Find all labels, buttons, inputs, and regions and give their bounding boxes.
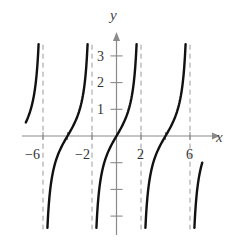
y-tick-label: 3 bbox=[97, 49, 104, 64]
curve-branch-5 bbox=[194, 163, 202, 228]
x-axis-label: x bbox=[215, 129, 223, 145]
y-axis-label: y bbox=[108, 7, 117, 23]
tangent-plot: y x −6 −2 2 6 1 2 3 bbox=[0, 0, 232, 240]
y-axis-arrow-icon bbox=[113, 32, 120, 41]
chart-stage: y x −6 −2 2 6 1 2 3 bbox=[0, 0, 232, 240]
y-tick-label: 1 bbox=[97, 102, 104, 117]
x-tick-label: 6 bbox=[186, 147, 193, 162]
x-tick-label: −2 bbox=[75, 147, 90, 162]
y-tick-label: 2 bbox=[97, 75, 104, 90]
x-tick-label: 2 bbox=[137, 147, 144, 162]
curve-branch-1 bbox=[26, 44, 39, 122]
x-tick-label: −6 bbox=[25, 147, 40, 162]
